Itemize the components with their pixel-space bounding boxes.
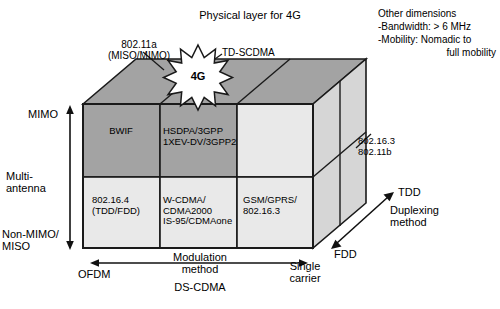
badge-4g: 4G: [178, 70, 218, 82]
axis-horizontal-arrow-left: [90, 259, 99, 267]
axis-vertical-label: Multi- antenna: [6, 170, 68, 195]
axis-horizontal-middle-label: DS-CDMA: [155, 281, 245, 293]
axis-depth-label: Duplexing method: [390, 204, 460, 229]
other-dimensions-bandwidth: -Bandwidth: > 6 MHz: [378, 21, 500, 32]
axis-depth-near-label: FDD: [334, 248, 357, 260]
cell-mimo-ofdm: [83, 104, 160, 177]
page-title: Physical layer for 4G: [150, 9, 350, 21]
cell-label-hsdpa: HSDPA/3GPP 1XEV-DV/3GPP2: [163, 126, 241, 147]
axis-vertical-arrow-top: [66, 105, 74, 114]
cell-label-802164: 802.16.4 (TDD/FDD): [92, 195, 164, 216]
axis-horizontal-right-label: Single carrier: [279, 260, 331, 285]
other-dimensions-mobility: -Mobility: Nomadic to: [378, 34, 500, 45]
axis-horizontal-left-label: OFDM: [78, 268, 110, 280]
axis-vertical-bottom-label: Non-MIMO/ MISO: [2, 228, 72, 253]
top-face-label-80211a: 802.11a (MISO/MIMO): [96, 39, 182, 61]
diagram-canvas: Physical layer for 4G Other dimensions -…: [0, 0, 500, 309]
cell-label-gsmgprs: GSM/GPRS/ 802.16.3: [243, 195, 317, 216]
axis-vertical-top-label: MIMO: [0, 108, 58, 120]
cell-mimo-singlecarrier: [237, 104, 313, 177]
axis-horizontal-label: Modulation method: [140, 251, 260, 276]
top-face-label-tdscdma: TD-SCDMA: [222, 47, 275, 58]
axis-depth-far-label: TDD: [398, 186, 421, 198]
cell-label-bwif: BWIF: [86, 126, 156, 137]
other-dimensions-heading: Other dimensions: [378, 8, 500, 19]
cell-label-wcdma: W-CDMA/ CDMA2000 IS-95/CDMAone: [163, 195, 241, 227]
other-dimensions-mobility-cont: full mobility: [378, 47, 496, 58]
side-face-label: 802.16.3 802.11b: [358, 136, 428, 157]
